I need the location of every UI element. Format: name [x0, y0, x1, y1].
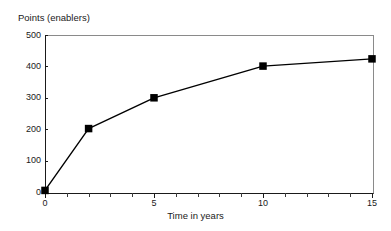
data-point-marker [85, 125, 93, 133]
series-line [45, 59, 372, 191]
data-series-line [0, 0, 391, 231]
chart-figure: Points (enablers) 0100200300400500 05101… [0, 0, 391, 231]
data-point-marker [259, 62, 267, 69]
data-point-marker [368, 55, 376, 63]
data-point-marker [41, 187, 49, 195]
x-axis-title: Time in years [0, 210, 391, 222]
data-point-marker [150, 94, 158, 102]
